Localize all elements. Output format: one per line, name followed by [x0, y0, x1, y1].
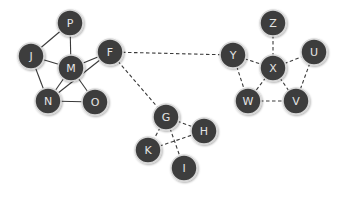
- node-label: P: [67, 17, 74, 30]
- node-u: U: [301, 39, 327, 65]
- node-label: V: [292, 95, 300, 108]
- node-label: J: [28, 50, 32, 63]
- node-label: G: [162, 111, 171, 124]
- node-label: I: [182, 162, 185, 175]
- node-h: H: [191, 118, 217, 144]
- node-x: X: [260, 55, 286, 81]
- node-g: G: [153, 104, 179, 130]
- node-i: I: [171, 155, 197, 181]
- node-label: M: [66, 62, 76, 75]
- edges-layer: [31, 23, 314, 168]
- node-label: F: [107, 46, 113, 59]
- node-label: H: [200, 125, 208, 138]
- node-label: U: [310, 46, 318, 59]
- node-v: V: [283, 88, 309, 114]
- node-label: W: [243, 95, 254, 108]
- node-label: X: [269, 62, 277, 75]
- node-label: Z: [269, 17, 277, 30]
- node-n: N: [35, 88, 61, 114]
- node-p: P: [57, 10, 83, 36]
- node-label: Y: [229, 49, 237, 62]
- graph-diagram: PJMFNOZYXUWVGHKI: [0, 0, 344, 200]
- edge-f-y: [110, 52, 233, 55]
- node-k: K: [135, 137, 161, 163]
- node-label: K: [144, 144, 152, 157]
- nodes-layer: PJMFNOZYXUWVGHKI: [18, 10, 327, 181]
- node-o: O: [82, 89, 108, 115]
- node-label: O: [91, 96, 100, 109]
- node-w: W: [235, 88, 261, 114]
- node-y: Y: [220, 42, 246, 68]
- node-m: M: [58, 55, 84, 81]
- node-label: N: [44, 95, 52, 108]
- node-j: J: [18, 43, 44, 69]
- node-f: F: [97, 39, 123, 65]
- node-z: Z: [260, 10, 286, 36]
